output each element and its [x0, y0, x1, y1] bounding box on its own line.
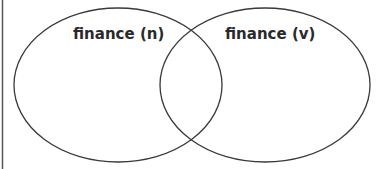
set-label-noun: finance (n): [73, 25, 164, 43]
set-label-verb: finance (v): [225, 25, 315, 43]
venn-diagram-graphic: [0, 0, 381, 169]
venn-diagram: finance (n) finance (v): [0, 0, 381, 169]
